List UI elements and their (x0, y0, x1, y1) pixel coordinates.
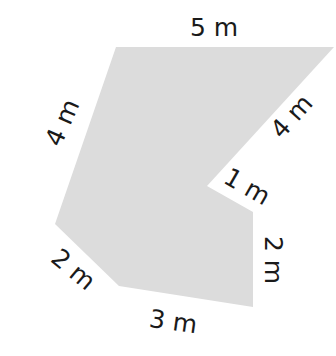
irregular-polygon-shape (55, 47, 334, 307)
polygon-diagram: 5 m 4 m 4 m 1 m 2 m 2 m 3 m (0, 0, 336, 356)
edge-label-upper-left: 4 m (39, 95, 85, 151)
edge-label-bottom: 3 m (147, 304, 199, 339)
edge-label-top: 5 m (190, 13, 238, 42)
edge-label-right: 2 m (259, 236, 288, 284)
